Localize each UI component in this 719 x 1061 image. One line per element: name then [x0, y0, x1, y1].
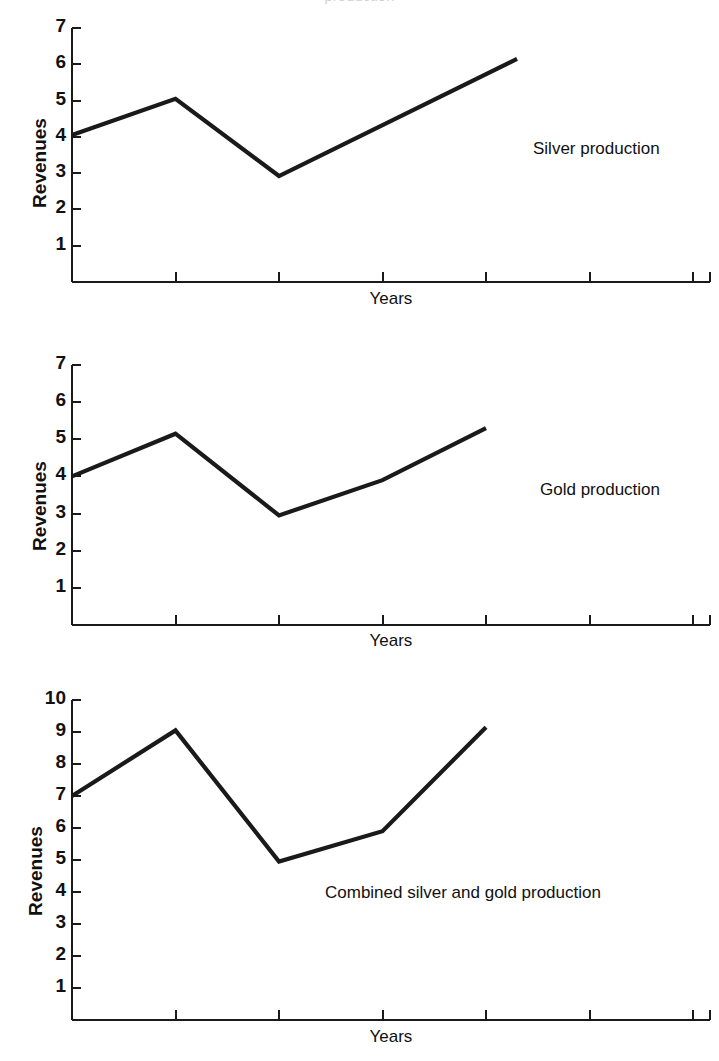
y-tick-label: 1	[26, 233, 66, 255]
chart-panel-combined: Revenues Years Combined silver and gold …	[0, 670, 719, 1061]
y-tick-label: 3	[26, 501, 66, 523]
y-tick-label: 8	[26, 751, 66, 773]
y-tick-label: 1	[26, 575, 66, 597]
y-tick-label: 5	[26, 426, 66, 448]
y-tick-label: 6	[26, 389, 66, 411]
y-tick-label: 4	[26, 463, 66, 485]
figure-canvas: production Revenues Years Silver product…	[0, 0, 719, 1061]
chart-panel-gold: Revenues Years Gold production 1234567	[0, 340, 719, 665]
y-tick-label: 9	[26, 719, 66, 741]
gold-production-plot	[0, 340, 719, 665]
chart-panel-silver: Revenues Years Silver production 1234567	[0, 0, 719, 330]
series-annotation-gold: Gold production	[540, 480, 660, 500]
y-tick-label: 6	[26, 51, 66, 73]
y-tick-label: 4	[26, 124, 66, 146]
y-tick-label: 10	[26, 687, 66, 709]
y-tick-label: 7	[26, 15, 66, 37]
series-annotation-silver: Silver production	[533, 139, 660, 159]
y-tick-label: 3	[26, 911, 66, 933]
y-tick-label: 3	[26, 160, 66, 182]
combined-production-plot	[0, 670, 719, 1061]
y-tick-label: 7	[26, 783, 66, 805]
y-tick-label: 2	[26, 943, 66, 965]
x-axis-label: Years	[370, 1027, 413, 1047]
y-tick-label: 4	[26, 879, 66, 901]
y-tick-label: 5	[26, 847, 66, 869]
y-tick-label: 6	[26, 815, 66, 837]
silver-production-plot	[0, 0, 719, 330]
x-axis-label: Years	[370, 289, 413, 309]
y-tick-label: 2	[26, 538, 66, 560]
y-axis-label: Revenues	[25, 826, 47, 916]
series-annotation-combined: Combined silver and gold production	[325, 883, 601, 903]
y-tick-label: 1	[26, 975, 66, 997]
y-tick-label: 7	[26, 352, 66, 374]
x-axis-label: Years	[370, 631, 413, 651]
y-tick-label: 5	[26, 88, 66, 110]
y-tick-label: 2	[26, 196, 66, 218]
